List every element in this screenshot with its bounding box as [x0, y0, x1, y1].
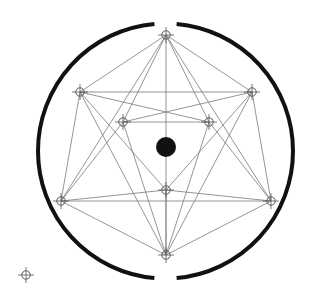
edge-T-IL [123, 35, 166, 122]
edge-IB-LR [166, 190, 271, 201]
edge-LR-B [166, 201, 271, 255]
geometric-star-diagram [0, 0, 309, 298]
node-B [158, 247, 174, 263]
node-UR [244, 84, 260, 100]
edge-UR-IL [123, 92, 252, 122]
node-LL [53, 193, 69, 209]
node-IB [158, 182, 174, 198]
node-LR [263, 193, 279, 209]
standalone-crosshair-icon [18, 267, 34, 283]
edge-UL-IR [80, 92, 209, 122]
edge-UR-IB [166, 92, 252, 190]
node-T [158, 27, 174, 43]
edge-IL-LL [61, 122, 123, 201]
center-dot [156, 137, 176, 157]
edge-T-UR [166, 35, 252, 92]
standalone-crosshair-marker [18, 267, 34, 283]
node-UL [72, 84, 88, 100]
edge-LL-B [61, 201, 166, 255]
edge-T-UL [80, 35, 166, 92]
edge-IB-LL [61, 190, 166, 201]
edge-UR-LR [252, 92, 271, 201]
edge-UL-LL [61, 92, 80, 201]
edge-UL-IB [80, 92, 166, 190]
edge-IR-LR [209, 122, 271, 201]
edge-T-IR [166, 35, 209, 122]
node-IL [115, 114, 131, 130]
ring-arc-right [177, 24, 293, 278]
node-IR [201, 114, 217, 130]
